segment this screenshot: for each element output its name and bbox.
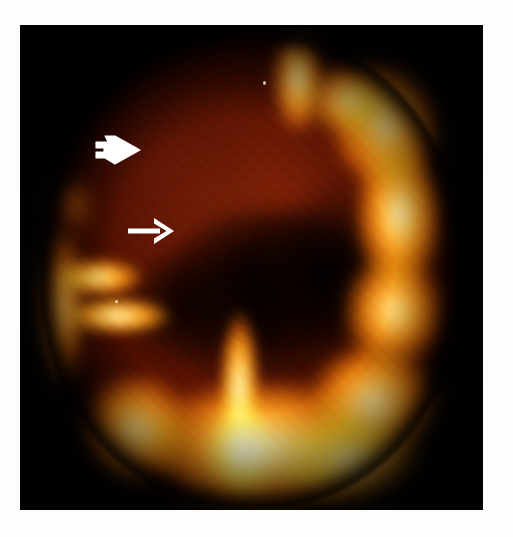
- open-arrow-annotation: [92, 133, 144, 167]
- image-speck: [263, 81, 266, 85]
- solid-arrow-icon: [126, 216, 176, 246]
- image-vignette: [20, 25, 483, 510]
- open-arrow-icon: [92, 133, 144, 167]
- figure-root: [0, 0, 513, 537]
- solid-arrow-annotation: [126, 216, 176, 246]
- brain-scan-image: [20, 25, 483, 510]
